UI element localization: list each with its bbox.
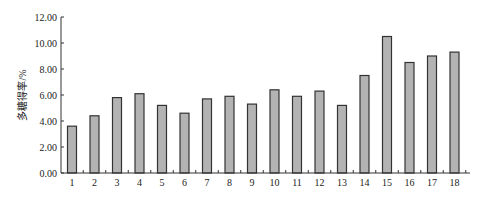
bar-3 bbox=[113, 98, 122, 173]
y-tick-label: 2.00 bbox=[40, 142, 58, 153]
bar-17 bbox=[428, 56, 437, 173]
bar-chart: 多糖得率/% 0.002.004.006.008.0010.0012.00 12… bbox=[0, 0, 482, 205]
bar-7 bbox=[203, 99, 212, 173]
y-tick-label: 8.00 bbox=[40, 64, 58, 75]
x-tick-label: 18 bbox=[450, 177, 460, 188]
x-tick-label: 9 bbox=[250, 177, 255, 188]
bar-10 bbox=[270, 90, 279, 173]
bar-1 bbox=[68, 126, 77, 173]
y-tick-label: 0.00 bbox=[40, 168, 58, 179]
x-tick-label: 7 bbox=[205, 177, 210, 188]
bar-12 bbox=[315, 91, 324, 173]
x-tick-label: 3 bbox=[115, 177, 120, 188]
bar-11 bbox=[293, 96, 302, 173]
x-tick-label: 17 bbox=[427, 177, 437, 188]
bar-8 bbox=[225, 96, 234, 173]
x-tick-label: 1 bbox=[70, 177, 75, 188]
bar-16 bbox=[405, 63, 414, 174]
bar-5 bbox=[158, 105, 167, 173]
x-tick-label: 8 bbox=[227, 177, 232, 188]
y-tick-label: 10.00 bbox=[35, 38, 58, 49]
y-tick-label: 12.00 bbox=[35, 12, 58, 23]
x-tick-label: 4 bbox=[137, 177, 142, 188]
bars bbox=[68, 37, 460, 174]
bar-2 bbox=[90, 116, 99, 173]
x-tick-label: 2 bbox=[92, 177, 97, 188]
bar-6 bbox=[180, 113, 189, 173]
x-tick-label: 14 bbox=[360, 177, 370, 188]
x-tick-label: 13 bbox=[337, 177, 347, 188]
x-tick-label: 12 bbox=[315, 177, 325, 188]
y-tick-label: 4.00 bbox=[40, 116, 58, 127]
x-tick-label: 15 bbox=[382, 177, 392, 188]
x-tick-label: 10 bbox=[270, 177, 280, 188]
bar-9 bbox=[248, 104, 257, 173]
bar-14 bbox=[360, 76, 369, 174]
x-tick-label: 16 bbox=[405, 177, 415, 188]
x-tick-label: 11 bbox=[292, 177, 302, 188]
x-tick-label: 6 bbox=[182, 177, 187, 188]
bar-18 bbox=[450, 52, 459, 173]
bar-15 bbox=[383, 37, 392, 174]
bar-4 bbox=[135, 94, 144, 173]
y-axis-title: 多糖得率/% bbox=[16, 69, 28, 120]
x-tick-label: 5 bbox=[160, 177, 165, 188]
bar-13 bbox=[338, 105, 347, 173]
y-tick-label: 6.00 bbox=[40, 90, 58, 101]
y-axis-ticks: 0.002.004.006.008.0010.0012.00 bbox=[35, 12, 65, 179]
